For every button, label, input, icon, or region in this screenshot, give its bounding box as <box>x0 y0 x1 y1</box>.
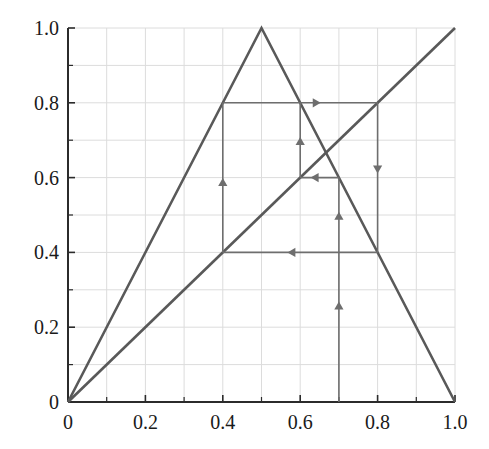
cobweb-arrowhead <box>334 212 343 220</box>
y-tick-label: 1.0 <box>34 18 59 38</box>
x-tick-label: 1.0 <box>443 412 468 432</box>
y-tick-label: 0.4 <box>34 242 59 262</box>
y-tick-label: 0 <box>49 392 59 412</box>
plot-canvas <box>0 0 489 449</box>
y-tick-label: 0.8 <box>34 93 59 113</box>
cobweb-arrowhead <box>373 165 382 173</box>
x-tick-label: 0.6 <box>288 412 313 432</box>
x-tick-label: 0 <box>63 412 73 432</box>
y-tick-label: 0.6 <box>34 168 59 188</box>
cobweb-arrowhead <box>287 248 295 257</box>
x-tick-label: 0.4 <box>210 412 235 432</box>
cobweb-arrowhead <box>311 173 319 182</box>
y-tick-label: 0.2 <box>34 317 59 337</box>
cobweb-arrowhead <box>334 302 343 310</box>
x-tick-label: 0.8 <box>365 412 390 432</box>
x-tick-label: 0.2 <box>133 412 158 432</box>
cobweb-arrowhead <box>296 137 305 145</box>
cobweb-arrowhead <box>218 178 227 186</box>
cobweb-arrowhead <box>313 98 321 107</box>
cobweb-plot-figure: 00.20.40.60.81.0 00.20.40.60.81.0 <box>0 0 489 449</box>
